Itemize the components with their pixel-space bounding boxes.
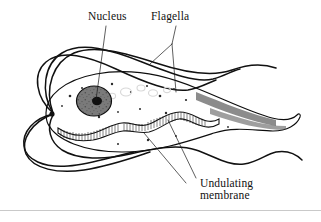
canvas-background <box>0 0 321 222</box>
label-undulating-line2: membrane <box>200 189 250 201</box>
label-flagella: Flagella <box>151 10 189 23</box>
protozoan-diagram: Nucleus Flagella Undulating membrane <box>0 0 321 222</box>
karyosome <box>92 97 102 105</box>
figure-panel: Nucleus Flagella Undulating membrane <box>0 0 321 222</box>
basal-body <box>49 111 54 116</box>
nucleus-group <box>77 86 112 116</box>
label-nucleus: Nucleus <box>88 10 127 22</box>
